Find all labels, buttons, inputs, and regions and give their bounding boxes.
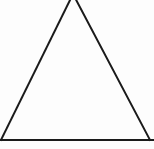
clipped-margin-glyph: , bbox=[0, 50, 7, 62]
triangle-diagram bbox=[0, 0, 154, 149]
figure-canvas: , bbox=[0, 0, 154, 149]
figure-background bbox=[0, 0, 154, 149]
